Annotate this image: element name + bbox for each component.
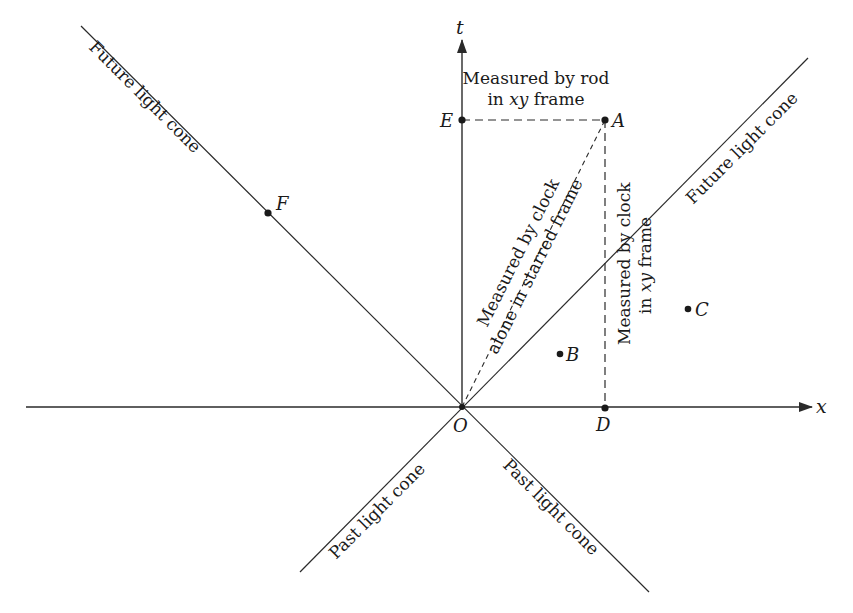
clock-xy-annotation: Measured by clock in xy frame — [614, 182, 655, 345]
rod-annotation-pre: in — [487, 89, 509, 109]
point-c-dot — [685, 306, 692, 313]
x-axis-label: x — [816, 395, 827, 417]
point-e-dot — [458, 116, 465, 123]
future-light-cone-left-label: Future light cone — [85, 37, 205, 157]
point-b-dot — [557, 351, 564, 358]
point-c-label: C — [695, 299, 709, 320]
rod-annotation-line1: Measured by rod — [463, 68, 610, 88]
clock-xy-post: frame — [635, 217, 655, 273]
point-f-dot — [264, 209, 271, 216]
clock-xy-pre: in — [635, 292, 655, 314]
clock-xy-annotation-line2: in xy frame — [635, 217, 655, 314]
point-a-dot — [601, 116, 608, 123]
past-light-cone-left-label: Past light cone — [325, 459, 429, 563]
origin-dot — [459, 404, 465, 410]
spacetime-diagram: x t E A D F B C O Future light cone Futu… — [0, 0, 853, 613]
rod-annotation-post: frame — [528, 89, 584, 109]
past-light-cone-right-label: Past light cone — [499, 455, 603, 559]
point-d-label: D — [595, 414, 611, 435]
point-d-dot — [601, 404, 608, 411]
origin-label: O — [453, 415, 468, 436]
starred-frame-annotation: Measured by clock alone in starred frame — [464, 166, 587, 357]
point-f-label: F — [275, 193, 290, 214]
rod-annotation-xy: xy — [509, 89, 529, 109]
t-axis-label: t — [456, 16, 464, 38]
future-light-cone-right-label: Future light cone — [682, 88, 802, 208]
clock-xy-xy: xy — [635, 273, 655, 293]
point-b-label: B — [565, 344, 579, 365]
point-a-label: A — [610, 110, 625, 131]
clock-xy-annotation-line1: Measured by clock — [614, 182, 634, 345]
point-e-label: E — [439, 110, 453, 131]
rod-annotation-line2: in xy frame — [487, 89, 584, 109]
